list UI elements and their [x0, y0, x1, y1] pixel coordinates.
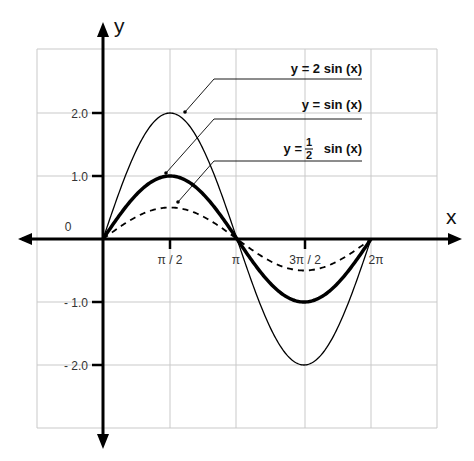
y-tick-label: 2.0 — [71, 107, 88, 121]
x-axis-left-arrow-icon — [18, 233, 32, 245]
x-tick-label: π / 2 — [158, 253, 183, 267]
x-tick-label: 2π — [369, 253, 384, 267]
y-tick-label: - 2.0 — [64, 359, 88, 373]
y-axis-bottom-arrow-icon — [97, 434, 109, 449]
legend-label-2sin: y = 2 sin (x) — [291, 61, 362, 76]
legend-label-half-num: 1 — [306, 136, 312, 148]
x-tick-label: 3π / 2 — [289, 253, 321, 267]
y-tick-label: - 1.0 — [64, 296, 88, 310]
y-tick-label: 1.0 — [71, 170, 88, 184]
legend-label-half-suffix: sin (x) — [324, 141, 362, 156]
origin-label: 0 — [65, 220, 72, 234]
x-axis-label: x — [446, 205, 457, 228]
y-axis-top-arrow-icon — [97, 22, 109, 37]
sine-chart: y x 2.0 1.0 0 - 1.0 - 2.0 π / 2 π 3π / 2… — [0, 0, 474, 461]
x-axis-right-arrow-icon — [448, 233, 462, 245]
y-axis-label: y — [114, 14, 125, 37]
legend-label-half-prefix: y = — [284, 141, 303, 156]
legend-item-sin: y = sin (x) — [164, 97, 362, 175]
x-tick-label: π — [232, 253, 240, 267]
legend-label-sin: y = sin (x) — [302, 97, 362, 112]
legend-label-half-den: 2 — [306, 149, 312, 161]
